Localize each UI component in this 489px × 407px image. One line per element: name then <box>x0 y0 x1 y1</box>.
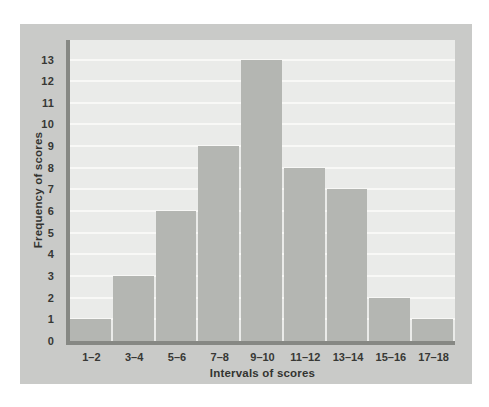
x-tick-label-15–16: 15–16 <box>376 351 407 363</box>
bar-7–8 <box>198 146 239 341</box>
y-tick-label-8: 8 <box>20 161 54 175</box>
y-tick-label-0: 0 <box>20 334 54 348</box>
bar-13–14 <box>327 189 368 341</box>
bar-1–2 <box>70 319 111 341</box>
x-tick-label-13–14: 13–14 <box>333 351 364 363</box>
bar-5–6 <box>156 211 197 341</box>
x-axis-title: Intervals of scores <box>70 367 455 379</box>
plot-area <box>66 40 455 345</box>
y-tick-label-13: 13 <box>20 53 54 67</box>
x-tick-label-1–2: 1–2 <box>82 351 100 363</box>
bar-3–4 <box>113 276 154 341</box>
x-tick-label-3–4: 3–4 <box>125 351 143 363</box>
page: Frequency of scores 012345678910111213 1… <box>0 0 489 407</box>
y-tick-label-7: 7 <box>20 182 54 196</box>
y-tick-label-4: 4 <box>20 247 54 261</box>
histogram-panel: Frequency of scores 012345678910111213 1… <box>20 24 472 384</box>
y-axis-tick-labels: 012345678910111213 <box>20 40 62 341</box>
y-tick-label-9: 9 <box>20 139 54 153</box>
bar-11–12 <box>284 168 325 341</box>
x-tick-label-17–18: 17–18 <box>418 351 449 363</box>
x-tick-label-5–6: 5–6 <box>168 351 186 363</box>
y-tick-label-5: 5 <box>20 226 54 240</box>
x-tick-label-11–12: 11–12 <box>290 351 320 363</box>
y-tick-label-10: 10 <box>20 117 54 131</box>
y-tick-label-11: 11 <box>20 96 54 110</box>
x-tick-label-9–10: 9–10 <box>250 351 274 363</box>
y-tick-label-2: 2 <box>20 291 54 305</box>
bar-17–18 <box>412 319 453 341</box>
plot-inner <box>70 40 455 341</box>
x-tick-label-7–8: 7–8 <box>211 351 229 363</box>
y-tick-label-1: 1 <box>20 312 54 326</box>
bar-9–10 <box>241 60 282 342</box>
y-tick-label-6: 6 <box>20 204 54 218</box>
x-axis-tick-labels: 1–23–45–67–89–1011–1213–1415–1617–18 <box>70 351 455 366</box>
y-tick-label-12: 12 <box>20 74 54 88</box>
y-tick-label-3: 3 <box>20 269 54 283</box>
bar-15–16 <box>369 298 410 341</box>
